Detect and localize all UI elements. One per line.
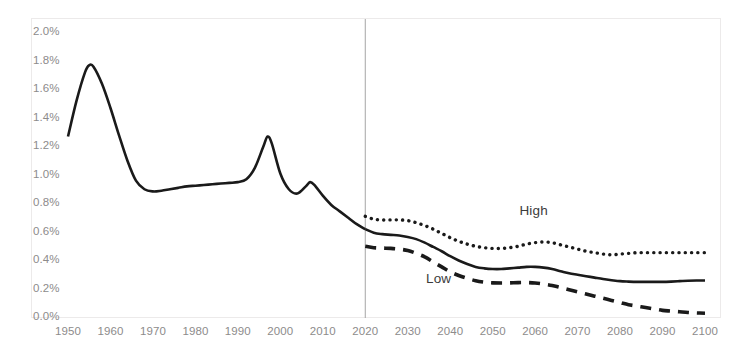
x-tick-label: 2020 [352,325,378,337]
x-tick-label: 2030 [395,325,421,337]
x-tick-label: 1960 [97,325,123,337]
x-tick-label: 2000 [267,325,293,337]
x-tick-label: 1970 [140,325,166,337]
annotation-low: Low [426,271,451,286]
x-tick-label: 2060 [522,325,548,337]
x-tick-label: 2040 [437,325,463,337]
x-tick-label: 1990 [225,325,251,337]
x-tick-label: 2010 [310,325,336,337]
x-tick-label: 1980 [182,325,208,337]
x-tick-label: 1950 [55,325,81,337]
growth-rate-chart: 0.0%0.2%0.4%0.6%0.8%1.0%1.2%1.4%1.6%1.8%… [0,0,741,358]
x-tick-label: 2090 [650,325,676,337]
x-axis-tick-labels: 1950196019701980199020002010202020302040… [0,0,741,358]
annotation-high: High [519,203,548,218]
x-tick-label: 2050 [480,325,506,337]
x-tick-label: 2070 [565,325,591,337]
x-tick-label: 2080 [607,325,633,337]
x-tick-label: 2100 [692,325,718,337]
